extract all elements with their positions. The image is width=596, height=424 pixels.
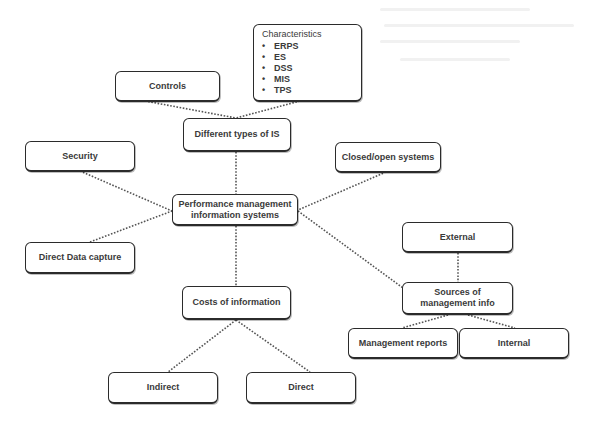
bullet-icon: • <box>262 63 265 74</box>
characteristics-title: Characteristics <box>262 29 353 40</box>
management-reports-node: Management reports <box>348 328 458 359</box>
edge-ddc-pmis <box>90 211 172 242</box>
characteristics-item: •TPS <box>262 85 353 96</box>
bullet-icon: • <box>262 41 265 52</box>
direct-data-capture-node: Direct Data capture <box>25 242 135 274</box>
characteristics-node: Characteristics •ERPS •ES •DSS •MIS •TPS <box>253 24 362 102</box>
closed-open-node: Closed/open systems <box>335 142 441 173</box>
edge-sources-reports <box>402 315 448 328</box>
diagram-canvas: Characteristics •ERPS •ES •DSS •MIS •TPS… <box>0 0 596 424</box>
characteristics-list: •ERPS •ES •DSS •MIS •TPS <box>262 41 353 96</box>
characteristics-item: •ES <box>262 52 353 63</box>
edge-sources-internal <box>468 315 515 328</box>
internal-node: Internal <box>459 328 569 359</box>
edge-security-pmis <box>80 171 172 211</box>
characteristics-item: •ERPS <box>262 41 353 52</box>
sources-node: Sources of management info <box>402 282 513 315</box>
indirect-node: Indirect <box>108 372 218 404</box>
bullet-icon: • <box>262 85 265 96</box>
bullet-icon: • <box>262 74 265 85</box>
characteristics-item: •DSS <box>262 63 353 74</box>
security-node: Security <box>25 141 135 172</box>
controls-node: Controls <box>115 71 220 102</box>
costs-node: Costs of information <box>182 286 291 320</box>
edge-costs-direct <box>236 320 310 372</box>
external-node: External <box>402 222 513 253</box>
characteristics-item: •MIS <box>262 74 353 85</box>
bullet-icon: • <box>262 52 265 63</box>
edge-costs-indirect <box>168 320 236 372</box>
edge-characteristics-types <box>236 101 300 118</box>
direct-node: Direct <box>246 372 356 404</box>
different-types-node: Different types of IS <box>183 118 291 152</box>
edge-pmis-sources <box>298 211 403 288</box>
pmis-node: Performance management information syste… <box>172 194 298 226</box>
edge-controls-types <box>145 101 236 118</box>
edge-closed-pmis <box>298 172 386 210</box>
